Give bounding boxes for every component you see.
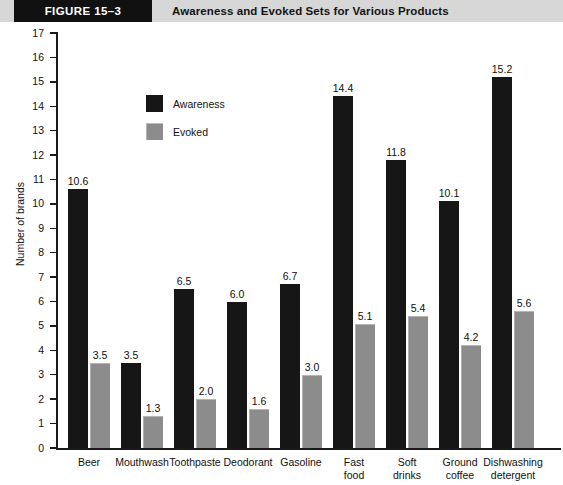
y-axis-tick xyxy=(50,154,57,155)
y-axis-tick xyxy=(50,203,57,204)
bar-evoked xyxy=(355,324,375,449)
y-axis-tick xyxy=(50,179,57,180)
x-axis-line xyxy=(56,448,561,450)
legend-item: Awareness xyxy=(146,95,225,112)
bar-value-label: 10.1 xyxy=(431,188,467,199)
legend-label: Evoked xyxy=(173,126,208,138)
bar-value-label: 15.2 xyxy=(484,64,520,75)
y-axis-tick-label: 2 xyxy=(14,394,44,404)
y-axis-tick-label: 12 xyxy=(14,150,44,160)
y-axis-tick-label: 1 xyxy=(14,418,44,428)
y-axis-tick xyxy=(50,57,57,58)
y-axis-tick-label: 13 xyxy=(14,125,44,135)
square-swatch-icon xyxy=(146,95,163,112)
bar-evoked xyxy=(461,345,481,448)
bar-value-label: 1.6 xyxy=(241,396,277,407)
bar-awareness xyxy=(174,289,194,448)
bar-value-label: 14.4 xyxy=(325,83,361,94)
y-axis-tick xyxy=(50,228,57,229)
bar-value-label: 3.0 xyxy=(294,362,330,373)
bar-value-label: 11.8 xyxy=(378,147,414,158)
y-axis-tick xyxy=(50,276,57,277)
bar-value-label: 10.6 xyxy=(60,176,96,187)
y-axis-tick-label: 14 xyxy=(14,101,44,111)
bar-evoked xyxy=(143,416,163,448)
figure-header: FIGURE 15–3 Awareness and Evoked Sets fo… xyxy=(0,0,563,22)
bar-value-label: 1.3 xyxy=(135,403,171,414)
y-axis-tick xyxy=(50,423,57,424)
y-axis-tick xyxy=(50,374,57,375)
y-axis-tick xyxy=(50,32,57,33)
y-axis-tick xyxy=(50,252,57,253)
bar-evoked xyxy=(514,311,534,448)
y-axis-tick xyxy=(50,325,57,326)
y-axis-tick xyxy=(50,447,57,448)
y-axis-tick-label: 15 xyxy=(14,76,44,86)
y-axis-tick xyxy=(50,301,57,302)
y-axis-tick-label: 6 xyxy=(14,296,44,306)
y-axis-tick-label: 8 xyxy=(14,247,44,257)
plot-area: 10.63.53.51.36.52.06.01.66.73.014.45.111… xyxy=(57,33,557,448)
bar-chart: Number of brands 17161514131211109876543… xyxy=(0,22,563,485)
figure-number-badge: FIGURE 15–3 xyxy=(14,0,152,22)
bar-awareness xyxy=(68,189,88,448)
y-axis-tick-label: 7 xyxy=(14,272,44,282)
bar-evoked xyxy=(196,399,216,448)
bar-evoked xyxy=(249,409,269,448)
y-axis-tick xyxy=(50,106,57,107)
y-axis-tick-label: 0 xyxy=(14,443,44,453)
bar-value-label: 4.2 xyxy=(453,332,489,343)
y-axis-tick xyxy=(50,350,57,351)
y-axis-tick xyxy=(50,81,57,82)
figure-title: Awareness and Evoked Sets for Various Pr… xyxy=(172,0,449,22)
bar-value-label: 5.1 xyxy=(347,311,383,322)
bar-awareness xyxy=(333,96,353,448)
bar-evoked xyxy=(302,375,322,448)
bar-value-label: 3.5 xyxy=(113,350,149,361)
bar-value-label: 6.5 xyxy=(166,276,202,287)
y-axis-tick-label: 11 xyxy=(14,174,44,184)
y-axis-tick-label: 4 xyxy=(14,345,44,355)
x-axis-category-label: Dishwashing detergent xyxy=(473,456,553,481)
y-axis-tick-label: 10 xyxy=(14,198,44,208)
legend-item: Evoked xyxy=(146,123,208,140)
y-axis-tick-label: 3 xyxy=(14,369,44,379)
y-axis-tick-label: 5 xyxy=(14,320,44,330)
square-swatch-icon xyxy=(146,123,163,140)
y-axis-tick-label: 9 xyxy=(14,223,44,233)
bar-evoked xyxy=(408,316,428,448)
y-axis-tick xyxy=(50,130,57,131)
y-axis-tick xyxy=(50,398,57,399)
bar-awareness xyxy=(492,77,512,448)
bar-value-label: 5.6 xyxy=(506,298,542,309)
bar-value-label: 5.4 xyxy=(400,303,436,314)
bar-value-label: 6.7 xyxy=(272,271,308,282)
y-axis-tick-label: 17 xyxy=(14,28,44,38)
bar-awareness xyxy=(439,201,459,448)
bar-value-label: 2.0 xyxy=(188,386,224,397)
y-axis-tick-label: 16 xyxy=(14,52,44,62)
bar-awareness xyxy=(227,302,247,448)
bar-value-label: 6.0 xyxy=(219,289,255,300)
bar-evoked xyxy=(90,363,110,448)
legend-label: Awareness xyxy=(173,98,225,110)
